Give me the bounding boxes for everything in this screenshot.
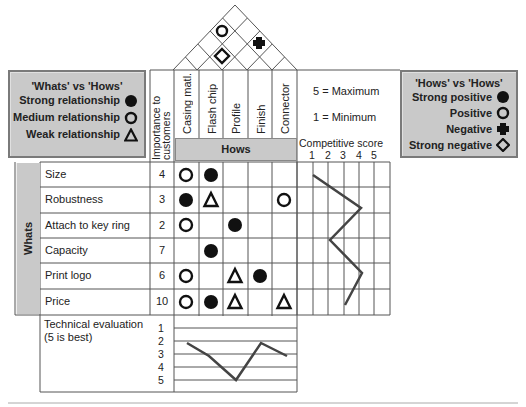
scale-label: 4 bbox=[158, 361, 168, 374]
scale-label: 3 bbox=[158, 348, 168, 361]
strong-relationship-icon bbox=[204, 244, 218, 258]
tech-eval-title: Technical evaluation bbox=[44, 318, 143, 331]
medium-relationship-icon bbox=[278, 194, 290, 206]
scale-label: 5 bbox=[158, 374, 168, 387]
strong-relationship-icon bbox=[228, 218, 242, 232]
strong-relationship-icon bbox=[179, 193, 193, 207]
medium-relationship-icon bbox=[180, 296, 192, 308]
relationship-matrix bbox=[0, 0, 526, 407]
strong-relationship-icon bbox=[204, 168, 218, 182]
medium-relationship-icon bbox=[180, 270, 192, 282]
technical-evaluation-label: Technical evaluation (5 is best) bbox=[44, 318, 143, 344]
strong-relationship-icon bbox=[204, 295, 218, 309]
scale-label: 1 bbox=[158, 322, 168, 335]
weak-relationship-icon bbox=[205, 193, 218, 206]
tech-eval-scale: 1 2 3 4 5 bbox=[158, 322, 168, 387]
weak-relationship-icon bbox=[229, 295, 242, 308]
strong-relationship-icon bbox=[253, 269, 267, 283]
weak-relationship-icon bbox=[229, 269, 242, 282]
scale-label: 2 bbox=[158, 335, 168, 348]
tech-eval-subtitle: (5 is best) bbox=[44, 331, 143, 344]
weak-relationship-icon bbox=[278, 295, 291, 308]
medium-relationship-icon bbox=[180, 219, 192, 231]
medium-relationship-icon bbox=[180, 169, 192, 181]
